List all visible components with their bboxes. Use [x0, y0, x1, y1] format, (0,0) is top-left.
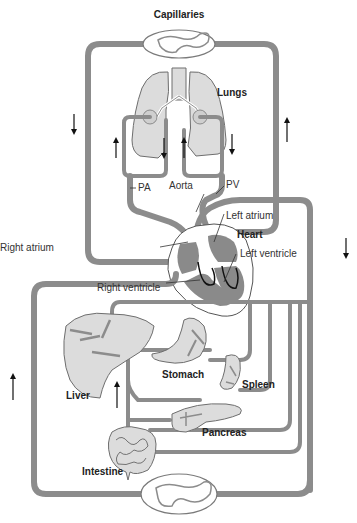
- trachea: [172, 68, 186, 100]
- label-capillaries: Capillaries: [154, 9, 205, 20]
- label-intestine: Intestine: [82, 466, 124, 477]
- label-lungs: Lungs: [217, 87, 247, 98]
- label-left-ventricle: Left ventricle: [240, 248, 297, 259]
- label-right-ventricle: Right ventricle: [97, 282, 161, 293]
- label-left-atrium: Left atrium: [226, 210, 273, 221]
- label-spleen: Spleen: [242, 379, 275, 390]
- label-right-atrium: Right atrium: [0, 242, 54, 253]
- label-pancreas: Pancreas: [202, 427, 247, 438]
- label-stomach: Stomach: [162, 369, 204, 380]
- lungs: [132, 68, 226, 158]
- upper-capillary-bed: [143, 30, 215, 58]
- right-atrium-chamber: [177, 242, 199, 274]
- label-pa: PA: [138, 182, 151, 193]
- stomach: [152, 318, 206, 363]
- circulatory-diagram: Capillaries Lungs PA Aorta PV Left atriu…: [0, 0, 357, 523]
- label-heart: Heart: [237, 229, 263, 240]
- liver: [64, 313, 154, 398]
- lower-capillary-bed: [141, 474, 217, 514]
- label-liver: Liver: [66, 390, 90, 401]
- label-aorta: Aorta: [169, 180, 193, 191]
- label-pv: PV: [226, 179, 240, 190]
